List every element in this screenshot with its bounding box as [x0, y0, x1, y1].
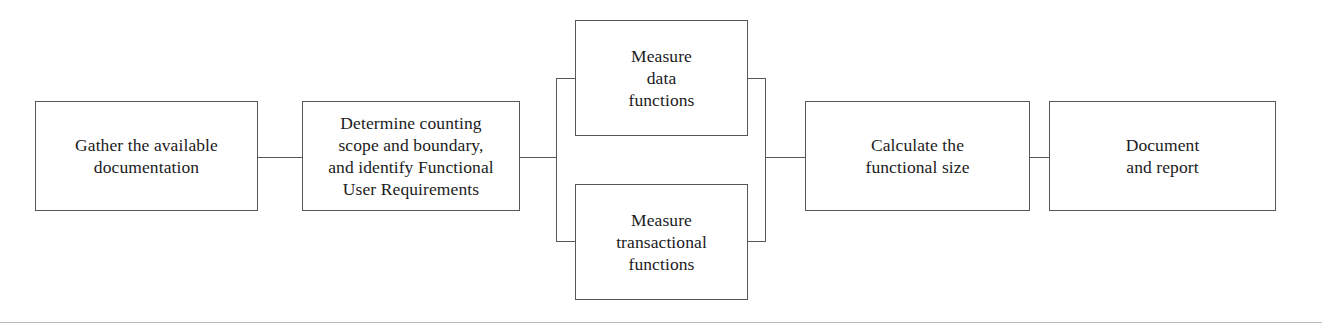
connector-transactional-functions-to-merge-bus	[748, 241, 766, 242]
connector-split-bus-to-data-functions	[556, 78, 575, 79]
process-box-measure-data-functions: Measure data functions	[575, 20, 748, 136]
process-box-determine-scope: Determine counting scope and boundary, a…	[302, 101, 520, 211]
connector-merge-bus-to-calculate	[765, 157, 805, 158]
connector-merge-bus-vertical	[765, 78, 766, 242]
connector-link-gather-to-determine	[258, 157, 302, 158]
connector-data-functions-to-merge-bus	[748, 78, 766, 79]
process-box-measure-transactional-functions: Measure transactional functions	[575, 184, 748, 300]
page-bottom-rule	[0, 322, 1322, 323]
process-box-document-and-report: Document and report	[1049, 101, 1276, 211]
connector-link-calculate-to-document	[1030, 157, 1049, 158]
connector-split-bus-vertical	[556, 78, 557, 242]
process-box-calculate-functional-size: Calculate the functional size	[805, 101, 1030, 211]
connector-link-determine-to-split-bus	[520, 157, 557, 158]
process-flow-diagram: Gather the available documentationDeterm…	[0, 0, 1322, 328]
connector-split-bus-to-transactional-functions	[556, 241, 575, 242]
process-box-gather-documentation: Gather the available documentation	[35, 101, 258, 211]
